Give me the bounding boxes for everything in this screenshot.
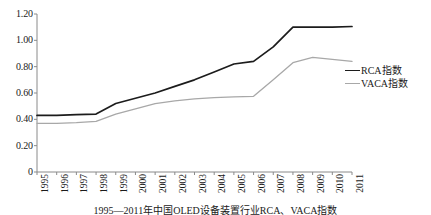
legend-label-vaca: VACA指数	[361, 78, 408, 89]
x-axis-tick-label: 1998	[100, 174, 110, 193]
legend-item-vaca: VACA指数	[345, 77, 431, 90]
x-axis-tick-label: 2003	[199, 174, 209, 193]
chart-axes	[37, 14, 352, 172]
x-axis-tick-label: 2007	[277, 174, 287, 193]
legend-item-rca: RCA指数	[345, 64, 431, 77]
x-axis-tick-label: 2010	[336, 174, 346, 193]
figure-caption: 1995—2011年中国OLED设备装置行业RCA、VACA指数	[0, 205, 431, 215]
x-axis-tick-label: 2005	[238, 174, 248, 193]
x-axis-tick-label: 1997	[80, 174, 90, 193]
x-axis-tick-label: 1996	[61, 174, 71, 193]
chart-figure: 00.200.400.600.801.001.20 19951996199719…	[0, 0, 431, 215]
chart-series-lines	[37, 27, 352, 124]
x-axis-tick-label: 2009	[317, 174, 327, 193]
series-line-rca	[37, 27, 352, 116]
chart-legend: RCA指数 VACA指数	[345, 64, 431, 90]
x-axis-tick-label: 2004	[218, 174, 228, 193]
x-axis-tick-label: 2001	[159, 174, 169, 193]
legend-label-rca: RCA指数	[361, 65, 402, 76]
x-axis-tick-label: 2002	[179, 174, 189, 193]
x-axis-tick-label: 2000	[139, 174, 149, 193]
x-axis-tick-label: 2011	[356, 174, 366, 193]
x-axis-tick-label: 2006	[258, 174, 268, 193]
x-axis-tick-label: 2008	[297, 174, 307, 193]
x-axis-tick-label: 1995	[41, 174, 51, 193]
legend-line-rca-icon	[345, 70, 360, 71]
legend-line-vaca-icon	[345, 83, 360, 84]
x-axis-tick-label: 1999	[120, 174, 130, 193]
series-line-vaca	[37, 57, 352, 123]
x-axis-tick-labels: 1995199619971998199920002001200220032004…	[37, 174, 357, 206]
